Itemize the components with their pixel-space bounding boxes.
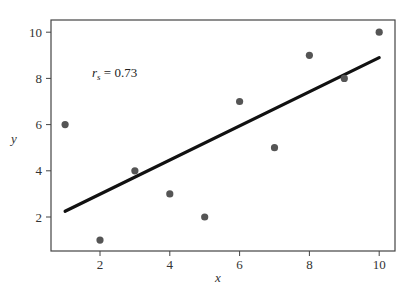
annotation-rs: rs = 0.73: [92, 65, 137, 82]
y-axis-label: y: [9, 131, 17, 146]
data-point: [341, 75, 348, 82]
annotation-value: = 0.73: [101, 65, 138, 80]
data-point: [62, 121, 69, 128]
data-point: [166, 190, 173, 197]
y-tick-label: 4: [36, 163, 43, 178]
fit-line: [65, 58, 379, 212]
data-point: [376, 29, 383, 36]
x-tick-label: 10: [373, 257, 386, 272]
y-tick-label: 6: [36, 117, 43, 132]
x-axis-label: x: [214, 270, 221, 285]
data-point: [131, 167, 138, 174]
data-point: [96, 237, 103, 244]
data-point: [306, 52, 313, 59]
x-tick-label: 8: [306, 257, 313, 272]
y-tick-label: 8: [36, 71, 43, 86]
scatter-chart: 246810 246810 rs = 0.73 x y: [0, 0, 410, 297]
data-point: [201, 213, 208, 220]
y-axis-ticks: 246810: [29, 25, 51, 225]
x-tick-label: 6: [236, 257, 243, 272]
y-tick-label: 10: [29, 25, 42, 40]
data-point: [271, 144, 278, 151]
x-tick-label: 4: [167, 257, 174, 272]
x-tick-label: 2: [97, 257, 104, 272]
x-axis-ticks: 246810: [97, 251, 386, 272]
y-tick-label: 2: [36, 210, 43, 225]
data-point: [236, 98, 243, 105]
regression-line: [65, 58, 379, 212]
